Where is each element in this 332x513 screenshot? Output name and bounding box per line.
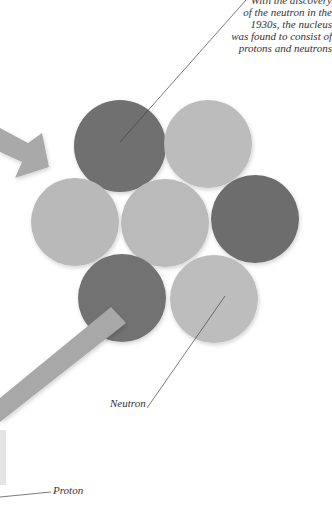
- caption-line: of the neutron in the: [228, 6, 332, 18]
- nucleus-diagram: [0, 0, 332, 513]
- particle-proton-middle-left: [31, 178, 119, 266]
- caption-line: protons and neutrons: [228, 42, 332, 54]
- edge-shadow: [0, 430, 6, 485]
- proton-label: Proton: [53, 484, 83, 496]
- proton-leader-line: [0, 492, 51, 497]
- particle-neutron-top-left: [74, 100, 166, 192]
- particle-proton-top-right: [164, 100, 252, 188]
- particle-proton-bottom-right: [170, 255, 258, 343]
- caption-line: was found to consist of: [228, 30, 332, 42]
- caption-line: 1930s, the nucleus: [228, 18, 332, 30]
- incoming-arrow-icon: [0, 128, 49, 178]
- neutron-label: Neutron: [110, 397, 146, 409]
- nucleus-caption: With the discovery of the neutron in the…: [228, 0, 332, 54]
- particle-neutron-middle-right: [211, 175, 299, 263]
- particle-proton-center: [121, 179, 209, 267]
- particle-track-bar: [0, 307, 126, 422]
- nucleus: [31, 100, 299, 343]
